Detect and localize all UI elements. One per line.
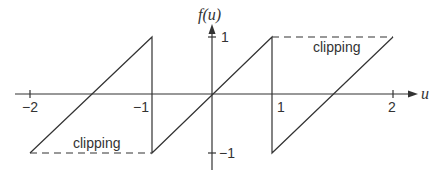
x-axis-label: u bbox=[421, 85, 429, 102]
x-tick-label-p2: 2 bbox=[388, 99, 396, 115]
x-tick-label-m2: −2 bbox=[22, 99, 38, 115]
clipping-label-left: clipping bbox=[73, 135, 120, 151]
y-axis-label: f(u) bbox=[198, 6, 221, 24]
x-tick-label-m1: −1 bbox=[133, 99, 149, 115]
x-axis-arrow-icon bbox=[408, 91, 418, 98]
sawtooth-clipping-diagram: −2 −1 1 2 1 −1 f(u) u clipping clipping bbox=[0, 0, 430, 176]
y-tick-label-p1: 1 bbox=[221, 29, 229, 45]
y-axis-arrow-icon bbox=[209, 24, 216, 34]
y-tick-label-m1: −1 bbox=[219, 145, 235, 161]
x-tick-label-p1: 1 bbox=[277, 99, 285, 115]
clipping-label-right: clipping bbox=[313, 39, 360, 55]
